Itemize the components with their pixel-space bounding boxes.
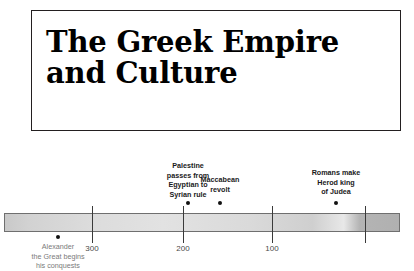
axis-tick — [365, 206, 366, 243]
event-marker-dot — [218, 201, 222, 205]
event-marker-dot — [186, 201, 190, 205]
event-marker-dot — [334, 201, 338, 205]
event-label: Maccabean revolt — [201, 175, 240, 194]
title-box: The Greek Empire and Culture — [31, 10, 401, 131]
event-label: Romans make Herod king of Judea — [312, 168, 361, 197]
axis-tick-label: 100 — [265, 244, 278, 253]
axis-tick — [272, 206, 273, 243]
axis-tick — [183, 206, 184, 243]
timeline-figure: 300200100 Palestine passes from Egyptian… — [0, 140, 414, 269]
axis-tick — [92, 206, 93, 243]
page-title: The Greek Empire and Culture — [46, 27, 376, 90]
axis-tick-label: 200 — [176, 244, 189, 253]
event-label: Alexander the Great begins his conquests — [31, 242, 84, 271]
event-marker-dot — [56, 235, 60, 239]
axis-tick-label: 300 — [85, 244, 98, 253]
timeline-bar — [4, 213, 400, 232]
